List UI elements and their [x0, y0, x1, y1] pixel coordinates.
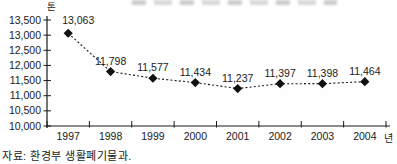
svg-text:1999: 1999	[141, 130, 165, 142]
x-axis-unit-label: 년	[384, 130, 393, 145]
svg-text:10,000: 10,000	[9, 120, 41, 132]
svg-text:1998: 1998	[99, 130, 123, 142]
svg-text:2000: 2000	[184, 130, 208, 142]
svg-text:1997: 1997	[57, 130, 81, 142]
line-chart: 10,00010,50011,00011,50012,00012,50013,0…	[0, 0, 397, 146]
source-note: 자료: 환경부 생활폐기물과.	[2, 147, 132, 163]
svg-text:11,434: 11,434	[180, 66, 211, 78]
svg-text:10,500: 10,500	[9, 104, 41, 116]
svg-text:11,397: 11,397	[264, 67, 295, 79]
svg-text:11,500: 11,500	[10, 74, 41, 86]
svg-text:12,000: 12,000	[9, 59, 41, 71]
svg-text:2004: 2004	[353, 130, 377, 142]
svg-text:11,237: 11,237	[222, 72, 253, 84]
svg-text:11,798: 11,798	[95, 55, 126, 67]
svg-text:2002: 2002	[268, 130, 292, 142]
svg-text:13,500: 13,500	[9, 14, 41, 26]
svg-text:12,500: 12,500	[9, 44, 41, 56]
svg-text:13,000: 13,000	[9, 29, 41, 41]
svg-text:11,464: 11,464	[349, 65, 380, 77]
svg-text:2001: 2001	[226, 130, 250, 142]
svg-text:2003: 2003	[311, 130, 335, 142]
svg-text:11,577: 11,577	[137, 61, 168, 73]
svg-text:11,398: 11,398	[307, 67, 338, 79]
svg-text:13,063: 13,063	[62, 14, 94, 26]
svg-text:11,000: 11,000	[10, 89, 41, 101]
chart-panel: 톤 10,00010,50011,00011,50012,00012,50013…	[0, 0, 397, 164]
